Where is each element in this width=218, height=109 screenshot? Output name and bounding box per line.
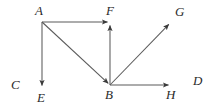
vertex-label-b: B [105,88,113,101]
vertex-label-f: F [106,4,114,17]
vertex-label-a: A [35,4,43,17]
edge-b-to-g [110,24,169,85]
edge-a-to-b [42,22,108,83]
vertex-label-e: E [37,91,45,104]
diagram-canvas: A B C D E F G H [0,0,218,109]
vertex-label-d: D [193,74,202,87]
vertex-label-h: H [166,88,175,101]
vertex-label-c: C [11,78,20,91]
vertex-label-g: G [175,5,184,18]
